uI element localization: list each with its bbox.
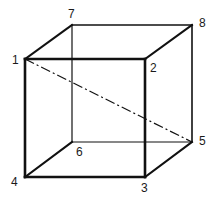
vertex-label-3: 3 [141,181,148,195]
vertex-label-2: 2 [150,61,157,75]
cube-diagram: 1 2 3 4 5 6 7 8 [0,0,218,202]
edge-2-8 [145,25,192,59]
diagonal-1-5 [25,59,192,142]
edge-4-6 [25,142,72,177]
vertex-label-1: 1 [12,53,19,67]
vertex-label-4: 4 [11,175,18,189]
vertex-label-8: 8 [199,16,206,30]
vertex-label-5: 5 [199,134,206,148]
vertex-label-6: 6 [76,145,83,159]
vertex-label-7: 7 [68,7,75,21]
edge-3-5 [145,142,192,177]
edge-1-7 [25,25,72,59]
